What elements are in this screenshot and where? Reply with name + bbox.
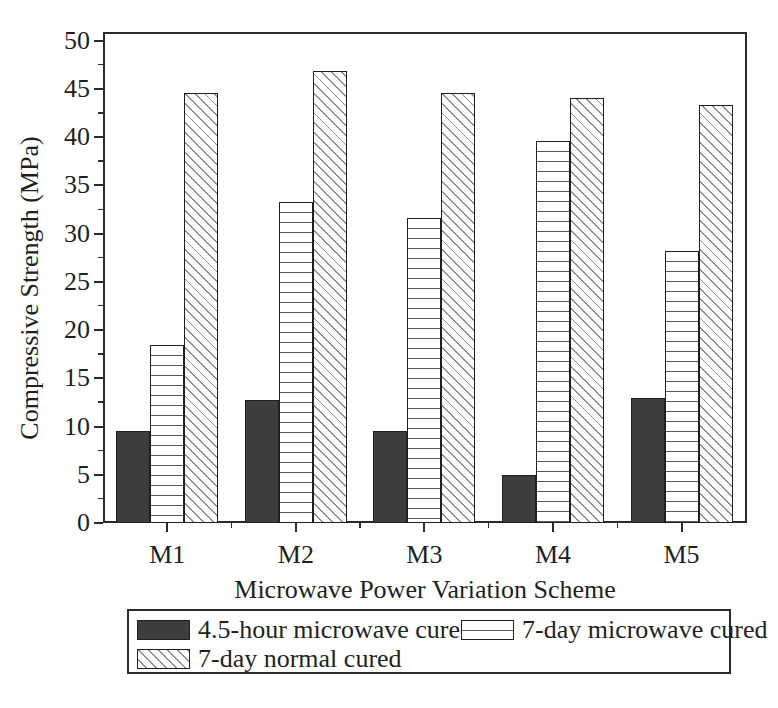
bar-M4-diagonal-lines [570,98,604,523]
x-axis-major-tick [423,523,425,532]
y-axis-minor-tick [98,401,103,403]
y-axis-minor-tick [98,450,103,452]
y-axis-tick-label: 35 [38,172,90,198]
bar-M5-horizontal-lines [665,251,699,523]
legend-swatch-solid-dark [137,620,190,640]
bar-M2-horizontal-lines [279,202,313,523]
y-axis-tick-label: 25 [38,269,90,295]
bar-M5-diagonal-lines [699,105,733,523]
y-axis-minor-tick [98,305,103,307]
x-axis-major-tick [552,523,554,532]
y-axis-tick-label: 15 [38,365,90,391]
x-axis-title: Microwave Power Variation Scheme [125,577,725,603]
legend-item-7-day-microwave-cured: 7-day microwave cured [461,618,767,642]
legend-label: 7-day microwave cured [522,618,767,642]
legend-item-7-day-normal-cured: 7-day normal cured [137,647,402,671]
y-axis-major-tick [94,522,103,524]
y-axis-major-tick [94,329,103,331]
y-axis-tick-label: 10 [38,414,90,440]
y-axis-tick-label: 5 [38,462,90,488]
y-axis-major-tick [94,281,103,283]
legend-label: 4.5-hour microwave cured [198,618,473,642]
x-axis-category-label: M3 [384,542,464,568]
legend-swatch-horizontal-lines [461,620,514,640]
y-axis-minor-tick [98,112,103,114]
figure-canvas: Compressive Strength (MPa) 0510152025303… [0,0,778,708]
y-axis-major-tick [94,88,103,90]
y-axis-minor-tick [98,257,103,259]
y-axis-tick-label: 45 [38,76,90,102]
bar-M4-horizontal-lines [536,141,570,523]
y-axis-minor-tick [98,209,103,211]
legend-item-4-5-hour-microwave-cured: 4.5-hour microwave cured [137,618,473,642]
x-axis-minor-tick [488,523,490,528]
x-axis-minor-tick [231,523,233,528]
bar-M3-horizontal-lines [407,218,441,523]
y-axis-major-tick [94,40,103,42]
x-axis-category-label: M4 [513,542,593,568]
y-axis-tick-label: 0 [38,510,90,536]
x-axis-category-label: M2 [256,542,336,568]
bar-M3-diagonal-lines [441,93,475,523]
x-axis-major-tick [681,523,683,532]
y-axis-tick-label: 30 [38,221,90,247]
y-axis-major-tick [94,233,103,235]
y-axis-major-tick [94,377,103,379]
y-axis-major-tick [94,474,103,476]
x-axis-major-tick [166,523,168,532]
bar-M3-solid-dark [373,431,407,523]
x-axis-category-label: M5 [642,542,722,568]
bar-M2-solid-dark [245,400,279,523]
bar-M4-solid-dark [502,475,536,523]
bar-M2-diagonal-lines [313,71,347,523]
y-axis-minor-tick [98,353,103,355]
bar-M5-solid-dark [631,398,665,523]
bar-M1-horizontal-lines [150,345,184,523]
y-axis-tick-label: 50 [38,28,90,54]
y-axis-minor-tick [98,498,103,500]
bar-M1-solid-dark [116,431,150,523]
y-axis-major-tick [94,136,103,138]
legend-box: 4.5-hour microwave cured 7-day microwave… [127,609,731,674]
y-axis-major-tick [94,184,103,186]
x-axis-minor-tick [359,523,361,528]
legend-swatch-diagonal-lines [137,649,190,669]
x-axis-category-label: M1 [127,542,207,568]
legend-label: 7-day normal cured [198,647,402,671]
bar-M1-diagonal-lines [184,93,218,523]
y-axis-minor-tick [98,160,103,162]
y-axis-major-tick [94,426,103,428]
x-axis-major-tick [295,523,297,532]
y-axis-tick-label: 20 [38,317,90,343]
y-axis-minor-tick [98,64,103,66]
x-axis-minor-tick [617,523,619,528]
y-axis-tick-label: 40 [38,124,90,150]
